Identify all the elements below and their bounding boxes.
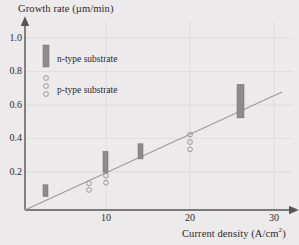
- n-type-bar-2: [103, 151, 108, 172]
- n-type-bar-3: [138, 144, 143, 159]
- vertical-gridlines: [106, 22, 274, 210]
- chart-figure: Growth rate (µm/min) Current density (A/…: [0, 0, 299, 245]
- legend-marker-n-type: [43, 45, 49, 67]
- plot-area: [0, 0, 299, 245]
- p-type-point-1: [87, 181, 92, 186]
- n-type-bar-4: [237, 84, 244, 118]
- n-type-data-bars: [43, 84, 244, 196]
- n-type-bar-1: [43, 185, 48, 197]
- p-type-point-2: [87, 188, 92, 193]
- legend-marker-p-type: [44, 76, 49, 97]
- p-type-data-points: [87, 132, 193, 192]
